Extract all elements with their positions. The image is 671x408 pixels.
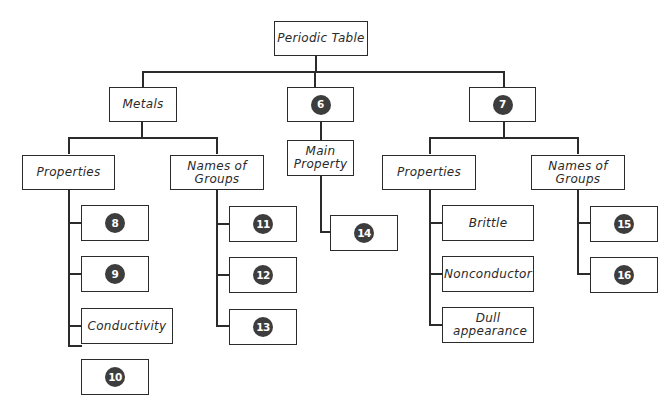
number-badge: 10	[105, 367, 125, 387]
number-badge: 15	[614, 214, 634, 234]
node-metals-properties: Properties	[22, 155, 115, 190]
node-periodic-table: Periodic Table	[274, 21, 368, 56]
node-label: Periodic Table	[277, 32, 365, 45]
node-nonmetals-names-of-groups: Names of Groups	[531, 155, 625, 190]
node-9: 9	[81, 256, 149, 292]
node-11: 11	[229, 206, 297, 242]
node-16: 16	[590, 257, 658, 293]
number-badge: 7	[493, 95, 513, 115]
number-badge: 11	[253, 214, 273, 234]
node-label: Names of Groups	[182, 160, 252, 186]
node-label: Nonconductor	[444, 268, 532, 281]
node-8: 8	[81, 205, 149, 241]
node-nonconductor: Nonconductor	[442, 256, 534, 292]
node-label: Names of Groups	[543, 160, 613, 186]
node-brittle: Brittle	[442, 205, 534, 241]
node-label: Properties	[397, 166, 461, 179]
node-10: 10	[81, 359, 149, 395]
node-15: 15	[590, 206, 658, 242]
number-badge: 12	[253, 265, 273, 285]
node-main-property: Main Property	[287, 140, 354, 176]
node-dull-appearance: Dull appearance	[442, 307, 534, 343]
node-nonmetals-properties: Properties	[382, 155, 476, 190]
node-label: Properties	[36, 166, 100, 179]
number-badge: 8	[105, 213, 125, 233]
number-badge: 16	[614, 265, 634, 285]
node-7: 7	[469, 87, 536, 122]
node-14: 14	[330, 215, 398, 251]
node-6: 6	[287, 87, 354, 122]
node-label: Dull appearance	[453, 312, 523, 338]
number-badge: 13	[253, 317, 273, 337]
node-12: 12	[229, 257, 297, 293]
number-badge: 9	[105, 264, 125, 284]
node-label: Metals	[122, 98, 163, 111]
node-metals: Metals	[109, 87, 177, 122]
node-label: Brittle	[469, 217, 508, 230]
number-badge: 14	[354, 223, 374, 243]
node-label: Conductivity	[87, 320, 166, 333]
node-conductivity: Conductivity	[81, 308, 173, 344]
number-badge: 6	[311, 95, 331, 115]
node-13: 13	[229, 309, 297, 345]
node-metals-names-of-groups: Names of Groups	[170, 155, 264, 190]
node-label: Main Property	[293, 145, 349, 171]
